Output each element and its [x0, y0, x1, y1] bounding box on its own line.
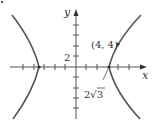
y-axis-label: y — [63, 6, 71, 19]
hyperbola-diagram: y x 2 (4, 4) 2√3 — [0, 0, 152, 121]
left-vertex-point — [37, 65, 40, 68]
y-axis — [73, 9, 79, 119]
y-axis-arrow-icon — [74, 9, 79, 16]
bullet-marker — [1, 1, 3, 3]
vertex-label: 2√3 — [84, 89, 103, 100]
vertex-leader-line — [103, 69, 108, 80]
right-vertex-point — [107, 65, 110, 68]
x-axis-label: x — [142, 69, 149, 82]
point-label: (4, 4) — [91, 39, 118, 50]
x-axis — [10, 64, 147, 70]
y-tick-label-2: 2 — [64, 52, 70, 63]
